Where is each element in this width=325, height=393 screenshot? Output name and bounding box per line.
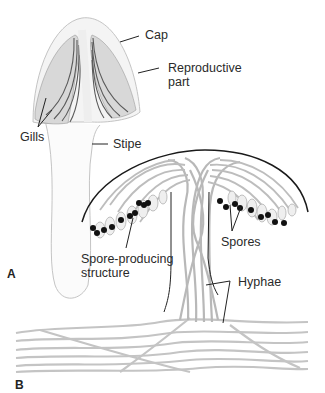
label-spores: Spores: [221, 235, 261, 249]
label-spore-producing-line1: Spore-producing: [81, 252, 173, 266]
diagram-artwork: [0, 0, 325, 393]
panel-letter-b: B: [15, 378, 24, 392]
hyphae-mat: [16, 318, 308, 372]
label-reproductive-part: Reproductive part: [168, 61, 242, 89]
label-gills: Gills: [20, 130, 44, 144]
label-cap: Cap: [145, 28, 168, 42]
label-reproductive-line2: part: [168, 75, 242, 89]
label-stipe: Stipe: [113, 137, 142, 151]
label-hyphae: Hyphae: [238, 275, 281, 289]
label-spore-producing-line2: structure: [81, 266, 173, 280]
fungus-diagram: Cap Reproductive part Gills Stipe Spores…: [0, 0, 325, 393]
panel-letter-a: A: [7, 267, 16, 281]
label-reproductive-line1: Reproductive: [168, 61, 242, 75]
label-spore-producing-structure: Spore-producing structure: [81, 252, 173, 280]
